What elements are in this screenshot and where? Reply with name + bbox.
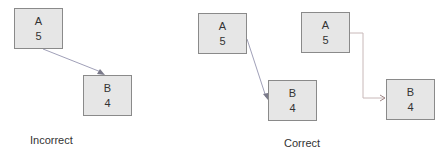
node-value: 5 [35, 29, 41, 44]
node-label: B [104, 81, 111, 96]
node-value: 4 [407, 100, 413, 115]
node-a-correct-diagonal: A 5 [198, 13, 247, 54]
node-label: B [407, 85, 414, 100]
caption-correct: Correct [284, 137, 320, 149]
caption-incorrect: Incorrect [30, 134, 73, 146]
node-value: 4 [104, 96, 110, 111]
node-b-correct-elbow: B 4 [386, 79, 435, 120]
node-label: B [289, 86, 296, 101]
node-a-correct-elbow: A 5 [301, 12, 350, 53]
node-label: A [322, 18, 329, 33]
node-value: 4 [289, 101, 295, 116]
node-b-incorrect: B 4 [83, 75, 132, 116]
node-label: A [35, 14, 42, 29]
edge-correct-diagonal [247, 39, 268, 100]
node-value: 5 [322, 33, 328, 48]
edge-correct-elbow [349, 33, 385, 101]
edge-incorrect [43, 49, 105, 75]
node-label: A [219, 19, 226, 34]
node-b-correct-diagonal: B 4 [268, 80, 317, 121]
node-value: 5 [219, 34, 225, 49]
node-a-incorrect: A 5 [14, 8, 63, 49]
